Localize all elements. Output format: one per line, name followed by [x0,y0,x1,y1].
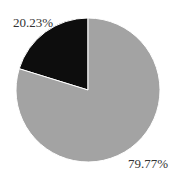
pie-slices [16,18,160,162]
slice-label-large: 79.77% [128,156,168,171]
slice-label-small: 20.23% [13,15,53,30]
pie-chart: 20.23% 79.77% [0,0,177,183]
